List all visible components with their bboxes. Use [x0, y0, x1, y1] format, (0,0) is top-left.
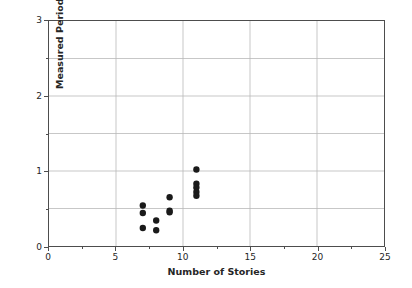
- x-tick-major: [250, 247, 251, 251]
- y-tick-minor: [46, 209, 48, 210]
- data-point: [166, 194, 172, 200]
- x-tick-minor: [217, 247, 218, 249]
- x-tick-major: [115, 247, 116, 251]
- x-tick-major: [385, 247, 386, 251]
- data-point: [140, 225, 146, 231]
- x-tick-minor: [284, 247, 285, 249]
- data-point: [153, 217, 159, 223]
- plot-area: [48, 20, 385, 247]
- y-tick-label: 0: [30, 242, 42, 252]
- y-axis-title: Measured Period, [sec]: [53, 0, 67, 141]
- x-tick-label: 20: [312, 252, 323, 262]
- x-tick-label: 5: [113, 252, 119, 262]
- scatter-chart-figure: 0510152025 0123 Number of Stories Measur…: [0, 0, 412, 288]
- x-tick-major: [318, 247, 319, 251]
- y-tick-major: [44, 247, 48, 248]
- y-tick-major: [44, 171, 48, 172]
- data-point: [193, 166, 199, 172]
- data-points-layer: [49, 21, 384, 246]
- x-tick-label: 15: [244, 252, 255, 262]
- x-tick-minor: [149, 247, 150, 249]
- y-tick-minor: [46, 134, 48, 135]
- data-point: [166, 209, 172, 215]
- y-tick-major: [44, 20, 48, 21]
- y-tick-label: 3: [30, 15, 42, 25]
- y-tick-label: 2: [30, 91, 42, 101]
- x-axis-title: Number of Stories: [48, 266, 385, 277]
- y-tick-label: 1: [30, 166, 42, 176]
- data-point: [153, 227, 159, 233]
- x-tick-label: 25: [379, 252, 390, 262]
- x-tick-major: [48, 247, 49, 251]
- x-tick-label: 10: [177, 252, 188, 262]
- x-tick-label: 0: [45, 252, 51, 262]
- x-tick-minor: [351, 247, 352, 249]
- x-tick-major: [183, 247, 184, 251]
- data-point: [193, 193, 199, 199]
- data-point: [140, 202, 146, 208]
- y-tick-minor: [46, 58, 48, 59]
- data-point: [140, 210, 146, 216]
- y-tick-major: [44, 96, 48, 97]
- x-tick-minor: [82, 247, 83, 249]
